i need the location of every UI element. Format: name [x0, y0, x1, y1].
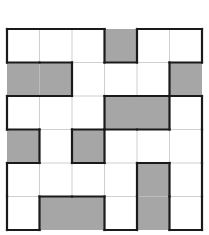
shaded-cell[interactable] — [105, 29, 138, 63]
white-cell[interactable] — [72, 96, 105, 130]
white-cell[interactable] — [72, 163, 105, 197]
white-cell[interactable] — [72, 63, 105, 97]
shaded-cell[interactable] — [105, 96, 138, 130]
white-cell[interactable] — [7, 29, 40, 63]
white-cell[interactable] — [137, 63, 170, 97]
shaded-cell[interactable] — [40, 197, 73, 231]
white-cell[interactable] — [170, 163, 203, 197]
shaded-cell[interactable] — [7, 130, 40, 164]
white-cell[interactable] — [170, 197, 203, 231]
white-cell[interactable] — [170, 130, 203, 164]
white-cell[interactable] — [105, 130, 138, 164]
white-cell[interactable] — [7, 96, 40, 130]
white-cell[interactable] — [170, 96, 203, 130]
white-cell[interactable] — [40, 29, 73, 63]
shaded-cell[interactable] — [72, 197, 105, 231]
white-cell[interactable] — [72, 29, 105, 63]
white-cell[interactable] — [105, 197, 138, 231]
shaded-cell[interactable] — [137, 163, 170, 197]
white-cell[interactable] — [170, 29, 203, 63]
white-cell[interactable] — [40, 96, 73, 130]
shaded-cell[interactable] — [7, 63, 40, 97]
shaded-cell[interactable] — [72, 130, 105, 164]
white-cell[interactable] — [7, 197, 40, 231]
shaded-cell[interactable] — [137, 197, 170, 231]
white-cell[interactable] — [137, 29, 170, 63]
shaded-cell[interactable] — [40, 63, 73, 97]
white-cell[interactable] — [7, 163, 40, 197]
white-cell[interactable] — [105, 163, 138, 197]
shaded-cell[interactable] — [137, 96, 170, 130]
shaded-cell[interactable] — [170, 63, 203, 97]
puzzle-board — [0, 0, 209, 235]
white-cell[interactable] — [40, 163, 73, 197]
white-cell[interactable] — [105, 63, 138, 97]
white-cell[interactable] — [137, 130, 170, 164]
white-cell[interactable] — [40, 130, 73, 164]
